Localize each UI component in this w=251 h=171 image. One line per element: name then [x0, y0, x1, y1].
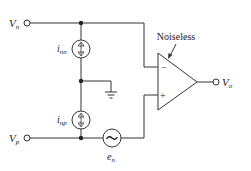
- minus-input-wire: [144, 23, 158, 67]
- noiseless-annotation: Noiseless: [157, 31, 195, 42]
- inn-label: inn: [57, 43, 67, 56]
- tilde-icon: [107, 137, 118, 140]
- opamp-minus-sign: −: [161, 62, 167, 73]
- ground-icon: [105, 92, 117, 98]
- en-label: en: [107, 151, 115, 164]
- node-top: [79, 21, 83, 25]
- node-middle: [79, 79, 83, 83]
- node-bottom: [79, 136, 83, 140]
- vp-terminal: [24, 135, 30, 141]
- inp-label: inp: [57, 114, 67, 127]
- annotation-arrowhead-icon: [168, 53, 173, 59]
- plus-input-wire: [121, 95, 158, 138]
- opamp-plus-sign: +: [160, 90, 166, 101]
- vo-label: Vo: [222, 76, 233, 90]
- vn-label: Vn: [9, 17, 20, 31]
- ground-wire: [81, 81, 111, 92]
- vo-terminal: [213, 79, 219, 85]
- vn-terminal: [24, 20, 30, 26]
- vp-label: Vp: [9, 132, 20, 146]
- circuit-diagram: Vn Vp Vo inn inp en Noiseless − +: [0, 0, 251, 171]
